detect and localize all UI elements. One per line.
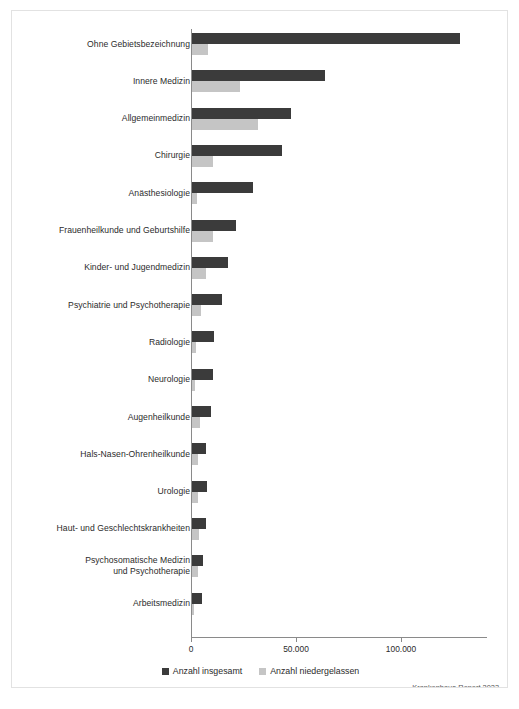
legend-swatch-icon bbox=[162, 668, 169, 675]
bar-niedergelassen bbox=[192, 231, 213, 242]
bar-niedergelassen bbox=[192, 604, 194, 615]
category-label-slot: Kinder- und Jugendmedizin bbox=[12, 257, 190, 279]
plot-area: Ohne GebietsbezeichnungInnere MedizinAll… bbox=[12, 11, 508, 688]
category-label: Anästhesiologie bbox=[14, 188, 190, 199]
category-label-slot: Anästhesiologie bbox=[12, 182, 190, 204]
x-axis-tick-label: 100.000 bbox=[386, 644, 416, 654]
category-label: Psychiatrie und Psychotherapie bbox=[14, 300, 190, 311]
bar-total bbox=[192, 593, 202, 604]
bar-total bbox=[192, 294, 222, 305]
bar-total bbox=[192, 70, 325, 81]
category-label: Psychosomatische Medizin und Psychothera… bbox=[14, 555, 190, 577]
category-label: Urologie bbox=[14, 486, 190, 497]
bar-total bbox=[192, 406, 211, 417]
category-label-slot: Neurologie bbox=[12, 369, 190, 391]
category-label: Allgemeinmedizin bbox=[14, 113, 190, 124]
bar-total bbox=[192, 257, 228, 268]
category-label-slot: Allgemeinmedizin bbox=[12, 108, 190, 130]
x-axis-tick-label: 0 bbox=[189, 644, 194, 654]
category-label: Augenheilkunde bbox=[14, 412, 190, 423]
category-label-slot: Hals-Nasen-Ohrenheilkunde bbox=[12, 443, 190, 465]
x-axis-tick-mark bbox=[401, 638, 402, 642]
category-label: Innere Medizin bbox=[14, 76, 190, 87]
bar-niedergelassen bbox=[192, 81, 240, 92]
bar-niedergelassen bbox=[192, 268, 206, 279]
x-axis-tick-label: 50.000 bbox=[283, 644, 309, 654]
legend-item-total: Anzahl insgesamt bbox=[162, 666, 242, 676]
category-label: Arbeitsmedizin bbox=[14, 598, 190, 609]
bar-niedergelassen bbox=[192, 492, 198, 503]
bar-total bbox=[192, 481, 207, 492]
bar-niedergelassen bbox=[192, 566, 198, 577]
category-label: Chirurgie bbox=[14, 150, 190, 161]
category-label-slot: Urologie bbox=[12, 481, 190, 503]
bar-niedergelassen bbox=[192, 305, 201, 316]
category-label: Haut- und Geschlechtskrankheiten bbox=[14, 523, 190, 534]
category-label-slot: Augenheilkunde bbox=[12, 406, 190, 428]
legend-item-nieder: Anzahl niedergelassen bbox=[259, 666, 359, 676]
bar-total bbox=[192, 33, 460, 44]
bar-niedergelassen bbox=[192, 193, 197, 204]
x-axis-tick-mark bbox=[191, 638, 192, 642]
bar-total bbox=[192, 518, 206, 529]
x-axis-line bbox=[191, 637, 487, 638]
x-axis-tick-mark bbox=[296, 638, 297, 642]
bar-total bbox=[192, 220, 236, 231]
category-label-slot: Innere Medizin bbox=[12, 70, 190, 92]
bar-niedergelassen bbox=[192, 380, 195, 391]
category-label: Neurologie bbox=[14, 374, 190, 385]
category-label-slot: Psychiatrie und Psychotherapie bbox=[12, 294, 190, 316]
bar-total bbox=[192, 331, 214, 342]
bar-total bbox=[192, 555, 203, 566]
source-note: Krankenhaus-Report 2023 bbox=[412, 683, 499, 688]
category-label-slot: Ohne Gebietsbezeichnung bbox=[12, 33, 190, 55]
bar-total bbox=[192, 443, 206, 454]
category-label-slot: Chirurgie bbox=[12, 145, 190, 167]
legend-swatch-icon bbox=[259, 668, 266, 675]
bar-niedergelassen bbox=[192, 119, 258, 130]
category-label-slot: Haut- und Geschlechtskrankheiten bbox=[12, 518, 190, 540]
bar-niedergelassen bbox=[192, 529, 199, 540]
category-label: Kinder- und Jugendmedizin bbox=[14, 262, 190, 273]
category-label-slot: Psychosomatische Medizin und Psychothera… bbox=[12, 555, 190, 577]
category-label-slot: Radiologie bbox=[12, 331, 190, 353]
category-label: Hals-Nasen-Ohrenheilkunde bbox=[14, 449, 190, 460]
category-label: Radiologie bbox=[14, 337, 190, 348]
category-label-slot: Arbeitsmedizin bbox=[12, 593, 190, 615]
bar-total bbox=[192, 182, 253, 193]
bar-niedergelassen bbox=[192, 44, 208, 55]
bar-total bbox=[192, 145, 282, 156]
chart-card: Ohne GebietsbezeichnungInnere MedizinAll… bbox=[11, 10, 508, 688]
legend-label: Anzahl niedergelassen bbox=[270, 666, 359, 676]
bar-niedergelassen bbox=[192, 342, 196, 353]
category-label: Ohne Gebietsbezeichnung bbox=[14, 39, 190, 50]
chart-legend: Anzahl insgesamtAnzahl niedergelassen bbox=[12, 666, 508, 676]
category-label: Frauenheilkunde und Geburtshilfe bbox=[14, 225, 190, 236]
bar-niedergelassen bbox=[192, 454, 198, 465]
bar-total bbox=[192, 108, 291, 119]
category-label-slot: Frauenheilkunde und Geburtshilfe bbox=[12, 220, 190, 242]
bar-niedergelassen bbox=[192, 156, 213, 167]
bar-total bbox=[192, 369, 213, 380]
legend-label: Anzahl insgesamt bbox=[173, 666, 242, 676]
bar-niedergelassen bbox=[192, 417, 200, 428]
